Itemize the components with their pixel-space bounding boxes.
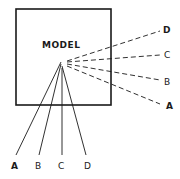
bottom-label-a: A — [11, 161, 18, 171]
right-label-a: A — [166, 101, 173, 111]
right-ray-b — [67, 64, 160, 80]
right-ray-d — [67, 31, 160, 61]
model-box — [16, 9, 111, 105]
bottom-ray-d — [62, 66, 86, 155]
bottom-label-d: D — [84, 161, 91, 171]
bottom-ray-b — [39, 64, 61, 155]
right-label-b: B — [164, 77, 170, 87]
model-label: MODEL — [42, 40, 80, 50]
bottom-ray-a — [16, 62, 61, 155]
right-label-c: C — [164, 50, 170, 60]
right-label-d: D — [163, 25, 170, 35]
right-ray-a — [67, 66, 160, 104]
bottom-label-c: C — [58, 161, 64, 171]
right-ray-c — [67, 55, 160, 62]
diagram-canvas: MODEL D C B A A B C D — [0, 0, 180, 179]
bottom-label-b: B — [35, 161, 41, 171]
